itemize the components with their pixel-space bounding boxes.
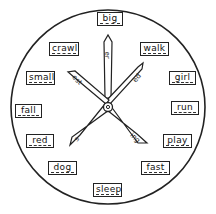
word-box-sleep[interactable]: sleep <box>93 183 122 197</box>
word-box-girl[interactable]: girl <box>169 71 196 85</box>
pointer-hand-est[interactable]: est <box>68 71 109 104</box>
word-box-big[interactable]: big <box>97 12 123 26</box>
pointer-hand-er[interactable]: er <box>103 35 112 98</box>
word-box-fall[interactable]: fall <box>15 104 42 118</box>
suffix-label-er: er <box>103 51 111 58</box>
pointer-hand-ing[interactable]: ing <box>107 105 147 145</box>
word-box-crawl[interactable]: crawl <box>49 42 79 56</box>
word-box-dog[interactable]: dog <box>48 161 77 175</box>
word-box-small[interactable]: small <box>26 71 55 85</box>
center-pin <box>106 105 109 108</box>
word-box-walk[interactable]: walk <box>140 42 169 56</box>
word-box-run[interactable]: run <box>171 101 199 115</box>
word-box-play[interactable]: play <box>163 134 192 148</box>
word-box-fast[interactable]: fast <box>141 161 170 175</box>
pointer-hand-s[interactable]: s <box>70 104 109 145</box>
word-box-red[interactable]: red <box>26 134 54 148</box>
